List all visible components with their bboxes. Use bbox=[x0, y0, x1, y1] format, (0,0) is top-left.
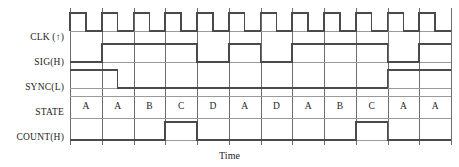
state-letter: D bbox=[269, 101, 283, 111]
state-letter: D bbox=[206, 101, 220, 111]
waveforms-group bbox=[70, 13, 451, 140]
state-letter: A bbox=[238, 101, 252, 111]
state-letter: C bbox=[365, 101, 379, 111]
state-letter: B bbox=[333, 101, 347, 111]
state-letter: C bbox=[174, 101, 188, 111]
state-letter: A bbox=[396, 101, 410, 111]
time-axis-label: Time bbox=[0, 150, 459, 161]
waveform-sig bbox=[70, 44, 451, 62]
state-letter: A bbox=[428, 101, 442, 111]
signal-label-sig: SIG(H) bbox=[34, 57, 64, 67]
signal-label-count: COUNT(H) bbox=[16, 132, 64, 142]
signal-label-sync: SYNC(L) bbox=[25, 82, 64, 92]
signal-label-column: CLK (↑) SIG(H) SYNC(L) STATE COUNT(H) bbox=[0, 0, 68, 145]
state-letter: A bbox=[301, 101, 315, 111]
signal-label-clk: CLK (↑) bbox=[30, 32, 64, 42]
waveform-clk bbox=[70, 13, 451, 31]
waveform-canvas bbox=[0, 0, 459, 167]
state-letter: A bbox=[79, 101, 93, 111]
waveform-count bbox=[70, 122, 451, 140]
signal-label-state: STATE bbox=[35, 107, 64, 117]
waveform-sync bbox=[70, 70, 451, 88]
timing-diagram: CLK (↑) SIG(H) SYNC(L) STATE COUNT(H) AA… bbox=[0, 0, 459, 167]
state-letter: B bbox=[142, 101, 156, 111]
state-letter: A bbox=[111, 101, 125, 111]
